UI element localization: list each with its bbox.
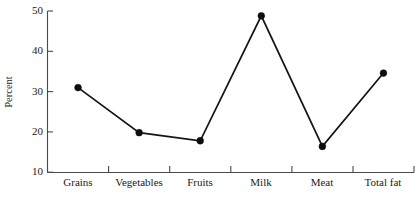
y-tick-label-40: 40 [32,44,44,56]
x-tick-label-meat: Meat [311,176,334,188]
chart-canvas: 50 40 30 20 10 Percent Grains Vegetables… [0,0,420,198]
y-tick-label-30: 30 [32,85,44,97]
y-tick-marks [48,11,54,172]
data-point-total-fat [380,70,387,77]
data-point-meat [319,143,326,150]
x-axis-group: Grains Vegetables Fruits Milk Meat Total… [48,166,415,188]
x-tick-label-grains: Grains [63,176,92,188]
y-axis-group: 50 40 30 20 10 Percent [3,4,53,177]
data-point-vegetables [136,129,143,136]
y-axis-label: Percent [3,76,14,108]
y-tick-label-20: 20 [32,125,44,137]
line-chart: 50 40 30 20 10 Percent Grains Vegetables… [0,0,420,198]
x-tick-label-total-fat: Total fat [365,176,402,188]
y-tick-label-10: 10 [32,165,44,177]
x-tick-label-vegetables: Vegetables [115,176,163,188]
x-tick-label-milk: Milk [250,176,272,188]
x-tick-label-fruits: Fruits [187,176,213,188]
y-tick-label-50: 50 [32,4,44,16]
data-point-markers [75,12,387,149]
data-point-fruits [197,137,204,144]
x-tick-marks [48,166,415,173]
data-series-line [78,16,383,147]
data-point-milk [258,12,265,19]
data-point-grains [75,84,82,91]
